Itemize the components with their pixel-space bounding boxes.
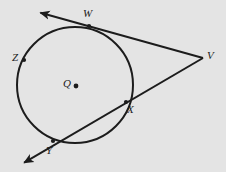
label-point-z: Z (12, 52, 18, 63)
point-dot-w (87, 24, 91, 28)
label-point-v: V (207, 50, 214, 61)
point-dot-z (22, 58, 26, 62)
label-point-w: W (83, 8, 92, 19)
geometry-canvas (0, 0, 226, 172)
point-dot-y (51, 139, 55, 143)
label-point-x: X (127, 104, 134, 115)
geometry-diagram: W V Z Q X Y (0, 0, 226, 172)
center-point-dot (74, 84, 79, 89)
label-point-y: Y (46, 145, 52, 156)
label-center-q: Q (63, 78, 71, 89)
